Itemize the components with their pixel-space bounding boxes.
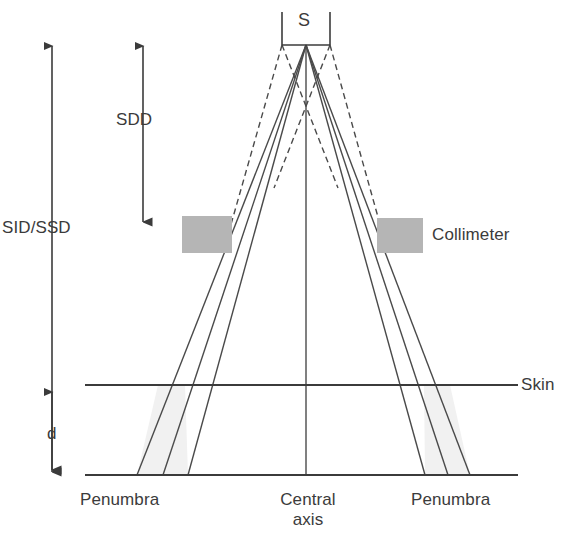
label-collimeter: Collimeter — [432, 225, 510, 245]
label-penumbra-left: Penumbra — [80, 490, 159, 510]
beam-ray-left-outer — [137, 45, 306, 475]
beam-rays — [137, 45, 470, 475]
penumbra-region-right — [424, 385, 470, 475]
label-source-size-s: S — [298, 10, 310, 30]
collimator-blocks — [182, 216, 423, 253]
label-skin: Skin — [521, 375, 554, 395]
beam-ray-left-mid — [163, 45, 306, 475]
beam-ray-right-outer — [306, 45, 470, 475]
collimator-block-right — [377, 218, 423, 253]
penumbra-shading — [137, 385, 470, 475]
penumbra-region-left — [137, 385, 188, 475]
beam-ray-right-inner — [306, 45, 425, 475]
label-depth-d: d — [47, 424, 57, 444]
beam-ray-left-inner — [188, 45, 306, 475]
label-penumbra-right: Penumbra — [411, 490, 490, 510]
label-central-axis-line1: Central — [263, 490, 353, 510]
penumbra-diagram-svg — [0, 0, 586, 543]
beam-ray-right-mid — [306, 45, 448, 475]
label-sdd: SDD — [116, 110, 152, 130]
label-sid-ssd: SID/SSD — [2, 218, 71, 238]
collimator-block-left — [182, 216, 232, 253]
label-central-axis: Central axis — [263, 490, 353, 530]
label-central-axis-line2: axis — [263, 510, 353, 530]
figure-canvas: SID/SSD SDD d S Collimeter Skin Penumbra… — [0, 0, 586, 543]
